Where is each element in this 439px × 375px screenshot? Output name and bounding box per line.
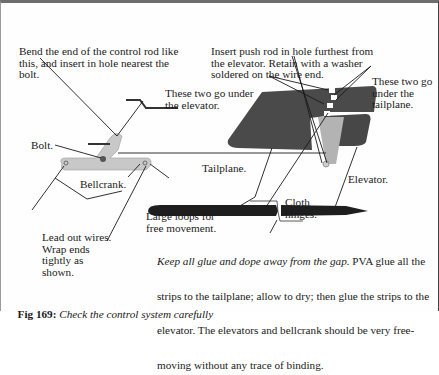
label-bend-rod: Bend the end of the control rod likethis…	[19, 23, 178, 92]
bolt-icon	[100, 156, 106, 162]
figure-caption: Fig 169: Check the control system carefu…	[12, 297, 213, 320]
label-bellcrank: Bellcrank.	[80, 179, 126, 191]
label-tailplane: Tailplane.	[202, 163, 246, 175]
hinge-slot	[331, 95, 337, 100]
label-cloth-hinges: Clothhinges.	[285, 174, 317, 232]
label-elevator: Elevator.	[348, 174, 388, 186]
elevator-horn-hole	[323, 161, 329, 167]
label-under-elevator: These two go underthe elevator.	[165, 65, 254, 123]
figure-number: Fig 169:	[18, 308, 57, 320]
bellcrank-shape	[61, 133, 151, 170]
label-bolt: Bolt.	[31, 140, 53, 152]
hinge-slot	[327, 103, 333, 108]
figure-caption-text: Check the control system carefully	[59, 308, 213, 320]
note-warning: Keep all glue and dope away from the gap…	[157, 255, 350, 267]
label-lead-out-wires: Lead out wires.Wrap endstightly asshown.	[42, 209, 111, 290]
label-under-tailplane: These two gounder thetailplane.	[372, 53, 432, 122]
